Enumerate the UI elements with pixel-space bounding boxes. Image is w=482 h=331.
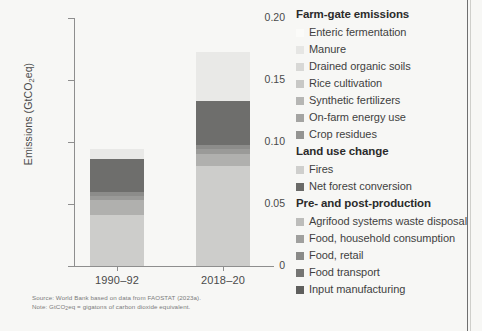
figure-notes: Source: World Bank based on data from FA…: [32, 293, 332, 312]
bar-segment: [196, 166, 250, 266]
bar-segment: [90, 159, 144, 192]
legend-item[interactable]: Crop residues: [296, 126, 468, 143]
legend-group-title: Pre- and post-production: [296, 195, 468, 212]
note-source: Source: World Bank based on data from FA…: [32, 293, 332, 302]
bar-1990–92: [90, 18, 144, 266]
bar-segment: [196, 52, 250, 102]
page-edge-rule-secondary: [470, 0, 471, 331]
page-edge-rule: [467, 0, 468, 331]
legend-swatch-icon: [296, 97, 304, 105]
legend-item[interactable]: Synthetic fertilizers: [296, 92, 468, 109]
bar-stack: [196, 52, 250, 266]
legend-item-label: Food, retail: [309, 247, 363, 264]
legend-item[interactable]: Enteric fermentation: [296, 24, 468, 41]
legend-item-label: Agrifood systems waste disposal: [309, 213, 467, 230]
bar-segment: [196, 154, 250, 166]
legend-item[interactable]: Manure: [296, 41, 468, 58]
legend-item[interactable]: Food, retail: [296, 247, 468, 264]
legend-swatch-icon: [296, 252, 304, 260]
x-tick-mark: [117, 266, 118, 271]
legend-swatch-icon: [296, 269, 304, 277]
bar-segment: [90, 215, 144, 266]
legend-item[interactable]: On-farm energy use: [296, 109, 468, 126]
legend-item-label: Rice cultivation: [309, 75, 382, 92]
legend-group-title: Land use change: [296, 143, 468, 160]
y-axis-label: Emissions (GtCO2eq): [22, 24, 34, 204]
legend-item-label: Crop residues: [309, 126, 377, 143]
y-tick-mark: [68, 204, 74, 205]
bar-2018–20: [196, 18, 250, 266]
legend-swatch-icon: [296, 131, 304, 139]
chart-legend: Farm-gate emissionsEnteric fermentationM…: [296, 6, 468, 298]
y-tick-mark: [68, 266, 74, 267]
legend-item[interactable]: Drained organic soils: [296, 58, 468, 75]
bar-segment: [90, 149, 144, 159]
y-axis-line: [74, 18, 75, 266]
legend-swatch-icon: [296, 183, 304, 191]
legend-item-label: Enteric fermentation: [309, 24, 406, 41]
legend-item[interactable]: Food transport: [296, 264, 468, 281]
legend-item-label: On-farm energy use: [309, 109, 406, 126]
legend-swatch-icon: [296, 46, 304, 54]
legend-item[interactable]: Agrifood systems waste disposal: [296, 213, 468, 230]
legend-group-title: Farm-gate emissions: [296, 6, 468, 23]
legend-item[interactable]: Net forest conversion: [296, 178, 468, 195]
legend-item-label: Manure: [309, 41, 346, 58]
bar-segment: [196, 101, 250, 144]
x-tick-mark: [223, 266, 224, 271]
legend-swatch-icon: [296, 166, 304, 174]
x-tick-label: 1990–92: [72, 274, 162, 286]
legend-item[interactable]: Fires: [296, 161, 468, 178]
legend-item-label: Fires: [309, 161, 333, 178]
note-definition: Note: GtCO2eq = gigatons of carbon dioxi…: [32, 302, 332, 312]
plot-area: Emissions (GtCO2eq) 0.200.150.100.050 19…: [0, 0, 285, 292]
legend-swatch-icon: [296, 218, 304, 226]
bar-stack: [90, 149, 144, 266]
legend-item-label: Food transport: [309, 264, 380, 281]
legend-swatch-icon: [296, 235, 304, 243]
legend-item-label: Food, household consumption: [309, 230, 455, 247]
legend-item-label: Net forest conversion: [309, 178, 412, 195]
y-tick-mark: [68, 80, 74, 81]
figure-stacked-bar-chart: Emissions (GtCO2eq) 0.200.150.100.050 19…: [0, 0, 482, 331]
legend-swatch-icon: [296, 80, 304, 88]
x-tick-label: 2018–20: [178, 274, 268, 286]
legend-item-label: Synthetic fertilizers: [309, 92, 400, 109]
bar-segment: [90, 200, 144, 214]
legend-swatch-icon: [296, 114, 304, 122]
legend-item[interactable]: Rice cultivation: [296, 75, 468, 92]
legend-swatch-icon: [296, 29, 304, 37]
legend-swatch-icon: [296, 63, 304, 71]
legend-item[interactable]: Food, household consumption: [296, 230, 468, 247]
y-tick-mark: [68, 18, 74, 19]
legend-item-label: Drained organic soils: [309, 58, 411, 75]
y-tick-mark: [68, 142, 74, 143]
